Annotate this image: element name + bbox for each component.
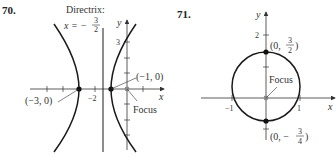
tick-label-xm2: −2 <box>88 94 97 103</box>
tick-label-y3: 3 <box>116 38 120 47</box>
bottom-paren-close: ) <box>305 131 308 143</box>
problem-number-71: 71. <box>177 8 191 20</box>
point-label-top: (0, <box>270 40 281 52</box>
directrix-frac-num: 3 <box>94 16 98 25</box>
problem-70-graph: 70. Directrix: x = − 3 2 x y 3 −2 <box>2 4 164 152</box>
top-paren-close: ) <box>295 40 298 52</box>
tick-label-y2: 2 <box>255 31 259 40</box>
vertex-bottom-point <box>263 118 268 123</box>
top-frac-den: 2 <box>288 46 292 55</box>
y-axis-label: y <box>255 9 261 20</box>
y-axis-label: y <box>116 17 122 28</box>
hyperbola-left-branch <box>54 24 79 152</box>
hyperbola-right-branch <box>111 24 136 152</box>
focus-label: Focus <box>133 104 157 115</box>
top-frac-num: 3 <box>288 36 292 45</box>
tick-label-x1: 1 <box>297 104 301 113</box>
focus-label: Focus <box>269 74 293 85</box>
problem-71-graph: 71. x y 2 −1 1 (0, 3 2 ) F <box>177 8 335 146</box>
x-axis-label: x <box>327 101 333 112</box>
tick-label-xm1: −1 <box>225 104 234 113</box>
point-label-right-vertex: (−1, 0) <box>136 71 163 83</box>
problem-number-70: 70. <box>2 4 16 16</box>
bottom-frac-den: 4 <box>298 137 302 146</box>
directrix-equation: x = − <box>63 20 87 31</box>
directrix-frac-den: 2 <box>94 25 98 34</box>
point-label-bottom: (0, − <box>270 131 289 143</box>
vertex-top-point <box>263 49 268 54</box>
bottom-frac-num: 3 <box>298 127 302 136</box>
figure-canvas: 70. Directrix: x = − 3 2 x y 3 −2 <box>0 0 336 160</box>
x-axis-label: x <box>158 91 164 102</box>
point-label-left-vertex: (−3, 0) <box>25 95 52 107</box>
directrix-label: Directrix: <box>66 4 105 15</box>
